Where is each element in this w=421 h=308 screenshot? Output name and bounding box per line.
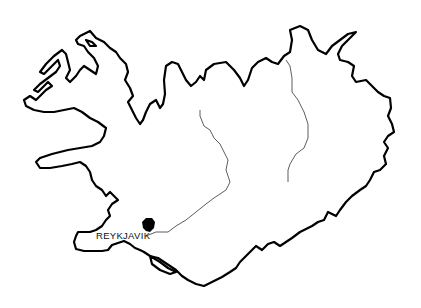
coastline bbox=[24, 26, 394, 286]
river-east bbox=[286, 60, 308, 182]
south-lake bbox=[150, 256, 176, 274]
westfjords-lake bbox=[86, 40, 96, 46]
city-label-reykjavik: REYKJAVIK bbox=[96, 230, 150, 241]
iceland-map bbox=[0, 0, 421, 308]
river-west bbox=[146, 110, 230, 236]
